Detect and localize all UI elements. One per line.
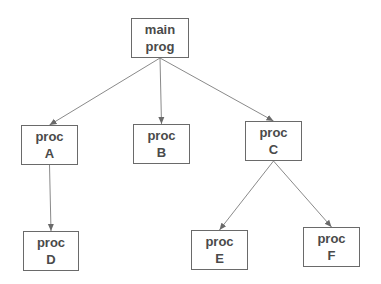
node-label-line2: D	[46, 251, 55, 268]
node-proc-f[interactable]: proc F	[303, 227, 360, 267]
node-label-line1: proc	[259, 124, 287, 141]
node-label-line1: proc	[317, 230, 345, 247]
node-main-prog[interactable]: main prog	[131, 18, 189, 58]
node-label-line2: C	[269, 141, 278, 158]
edge-arrow-c-e	[220, 161, 274, 230]
edge-arrow-main-b	[160, 58, 162, 124]
node-proc-d[interactable]: proc D	[23, 231, 79, 271]
node-label-line1: proc	[205, 233, 233, 250]
node-label-line2: A	[45, 145, 54, 162]
edge-arrow-c-f	[274, 161, 332, 227]
node-label-line2: E	[215, 250, 224, 267]
node-label-line2: prog	[146, 38, 175, 55]
node-proc-a[interactable]: proc A	[21, 125, 78, 165]
node-proc-e[interactable]: proc E	[191, 230, 248, 270]
node-proc-b[interactable]: proc B	[133, 124, 190, 164]
node-label-line1: proc	[35, 128, 63, 145]
node-label-line1: main	[145, 21, 175, 38]
edge-arrow-a-d	[50, 165, 52, 231]
edge-arrow-main-a	[50, 58, 161, 125]
node-label-line2: B	[157, 144, 166, 161]
node-label-line1: proc	[37, 234, 65, 251]
node-label-line1: proc	[147, 127, 175, 144]
edge-arrow-main-c	[160, 58, 274, 121]
node-proc-c[interactable]: proc C	[245, 121, 302, 161]
node-label-line2: F	[328, 247, 336, 264]
